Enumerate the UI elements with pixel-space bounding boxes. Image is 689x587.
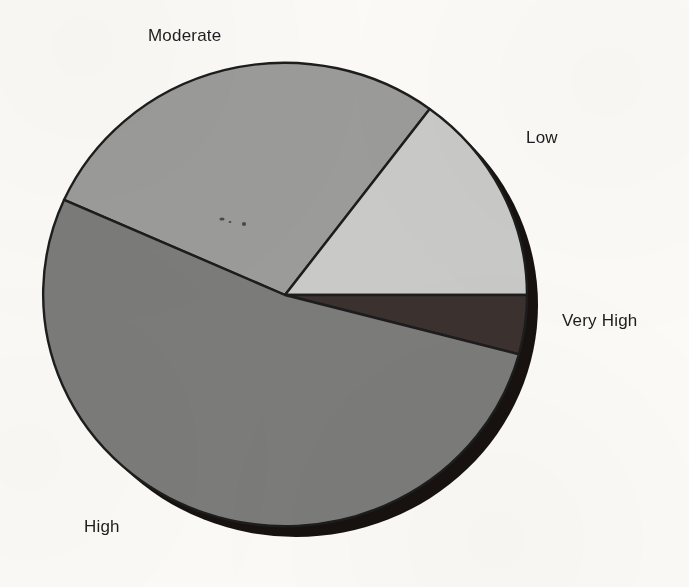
pie-label-very-high: Very High (562, 311, 638, 331)
pie-chart-page: Moderate Low Very High High (0, 0, 689, 587)
pie-label-high: High (84, 517, 120, 537)
pie-chart-figure (0, 0, 689, 587)
pie-label-low: Low (526, 128, 558, 148)
pie-label-moderate: Moderate (148, 26, 221, 46)
